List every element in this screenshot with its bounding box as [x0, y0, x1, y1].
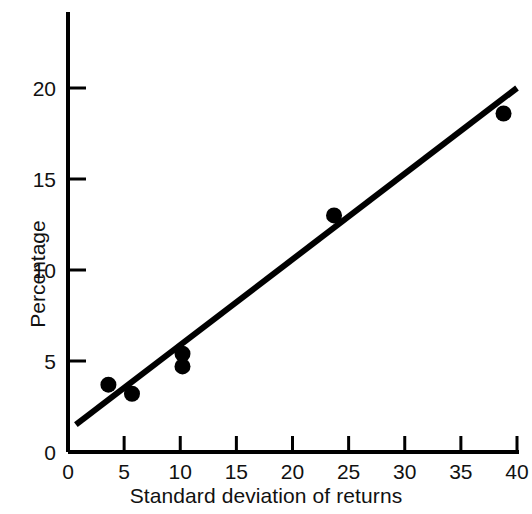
y-tick-label: 20: [18, 78, 56, 99]
y-axis-title: Percentage: [26, 174, 50, 374]
x-axis-ticks: [68, 436, 517, 450]
data-point: [496, 105, 512, 121]
scatter-chart: 0510152025303540 05101520 Standard devia…: [0, 0, 532, 514]
regression-line: [76, 88, 517, 425]
x-tick-label: 30: [393, 461, 416, 482]
x-tick-label: 20: [281, 461, 304, 482]
data-point: [124, 386, 140, 402]
data-point: [100, 377, 116, 393]
y-tick-label: 0: [18, 442, 56, 463]
x-tick-label: 15: [225, 461, 248, 482]
x-tick-label: 0: [62, 461, 74, 482]
x-tick-label: 35: [449, 461, 472, 482]
x-tick-label: 40: [505, 461, 528, 482]
data-point: [174, 358, 190, 374]
data-point: [326, 207, 342, 223]
y-axis-ticks: [70, 88, 86, 361]
x-tick-label: 10: [169, 461, 192, 482]
axes: [68, 12, 519, 452]
trend-line: [76, 88, 517, 425]
plot-area: [0, 0, 532, 514]
x-tick-label: 25: [337, 461, 360, 482]
x-axis-title: Standard deviation of returns: [0, 484, 532, 508]
x-tick-label: 5: [118, 461, 130, 482]
